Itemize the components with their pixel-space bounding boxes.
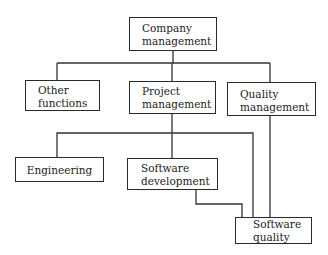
node-label: Other (38, 84, 87, 97)
node-label: Engineering (16, 163, 103, 176)
node-label: Project (142, 85, 211, 98)
node-software-quality: Software quality (235, 217, 312, 244)
node-label: Company (142, 22, 211, 35)
node-label: management (142, 98, 211, 111)
node-company-management: Company management (129, 17, 217, 51)
connector-swdev-to-swquality (196, 189, 242, 217)
node-label: management (142, 35, 211, 48)
node-label: quality (253, 231, 301, 244)
org-chart-diagram: Company management Other functions Proje… (0, 0, 328, 255)
node-label: Software (141, 162, 210, 175)
node-label: Software (253, 218, 301, 231)
node-software-development: Software development (127, 158, 218, 190)
node-label: management (240, 101, 309, 114)
node-project-management: Project management (129, 81, 216, 114)
node-quality-management: Quality management (227, 82, 316, 116)
node-other-functions: Other functions (25, 80, 100, 111)
node-engineering: Engineering (15, 157, 104, 182)
node-label: functions (38, 97, 87, 110)
node-label: Quality (240, 88, 309, 101)
node-label: development (141, 175, 210, 188)
